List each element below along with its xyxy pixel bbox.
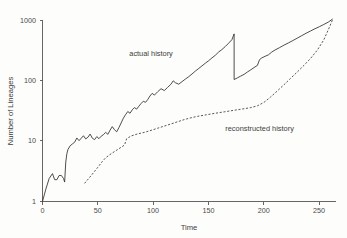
- x-axis-ticks: [43, 202, 320, 206]
- annotation-actual-history: actual history: [129, 49, 173, 58]
- x-tick-label-50: 50: [94, 206, 102, 215]
- y-tick-label-10: 10: [28, 136, 36, 145]
- series-line-reconstructed-history: [85, 19, 333, 183]
- y-axis-title: Number of Lineages: [6, 77, 15, 146]
- x-tick-label-0: 0: [41, 206, 45, 215]
- x-tick-label-100: 100: [147, 206, 159, 215]
- y-tick-label-1: 1: [32, 197, 36, 206]
- x-axis-title: Time: [181, 223, 198, 232]
- y-tick-label-100: 100: [24, 76, 36, 85]
- chart-figure: 1000 100 10 1 0 50 100 150 200 250 Time …: [0, 0, 347, 238]
- lineage-through-time-plot: 1000 100 10 1 0 50 100 150 200 250 Time …: [0, 0, 347, 238]
- annotation-reconstructed-history: reconstructed history: [225, 124, 294, 133]
- series-line-actual-history: [43, 19, 333, 202]
- y-tick-label-1000: 1000: [20, 16, 36, 25]
- x-tick-label-250: 250: [313, 206, 325, 215]
- x-tick-label-150: 150: [202, 206, 214, 215]
- x-tick-label-200: 200: [258, 206, 270, 215]
